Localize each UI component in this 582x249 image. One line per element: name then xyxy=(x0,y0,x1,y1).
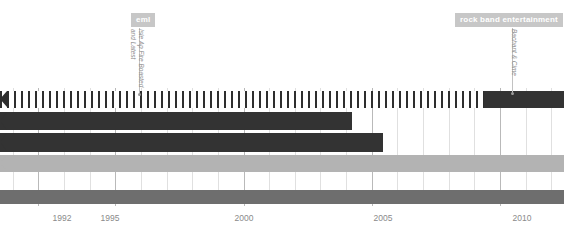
timeline-chart: eml Isle Ap Fire Boasted and Latest rock… xyxy=(0,0,582,249)
axis-tick-label-1992: 1992 xyxy=(53,213,72,223)
continuation-arrow-icon xyxy=(0,91,7,107)
bar-row-4 xyxy=(0,155,564,172)
annotation-stem-dot-rock-band-entertainment xyxy=(511,92,514,95)
annotation-sublabel-rock-band-line1: Bachant & Cime xyxy=(511,29,519,76)
annotation-sublabel-eml: Isle Ap Fire Boasted and Latest xyxy=(130,29,145,87)
annotation-badge-rock-band-entertainment[interactable]: rock band entertainment xyxy=(455,13,563,27)
annotation-sublabel-rock-band-entertainment: Bachant & Cime xyxy=(511,29,519,76)
annotation-stem-dot-eml xyxy=(138,93,141,96)
bar-row-2 xyxy=(0,112,352,130)
axis-tick-label-1995: 1995 xyxy=(101,213,120,223)
continuation-arrow-icon-row-3 xyxy=(0,133,7,151)
axis-tick-label-2010: 2010 xyxy=(513,213,532,223)
annotation-badge-eml[interactable]: eml xyxy=(131,13,155,27)
continuation-arrow-icon-row-2 xyxy=(0,112,7,130)
axis-tick-label-2000: 2000 xyxy=(235,213,254,223)
annotation-sublabel-eml-line2: and Latest xyxy=(130,29,138,87)
continuation-arrow-icon-row-4 xyxy=(0,155,7,171)
bar-ruler-solid-segment xyxy=(484,91,564,108)
bar-row-5 xyxy=(0,190,564,204)
axis-tick-label-2005: 2005 xyxy=(374,213,393,223)
bar-row-3 xyxy=(0,133,383,152)
annotation-sublabel-eml-line1: Isle Ap Fire Boasted xyxy=(138,29,146,87)
continuation-arrow-icon-row-5 xyxy=(0,190,7,204)
bar-ruler-band xyxy=(0,91,484,108)
